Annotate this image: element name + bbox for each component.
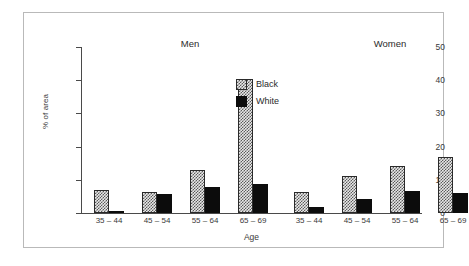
legend-swatch-solid-icon — [236, 96, 247, 107]
legend-item-black: Black — [236, 76, 279, 93]
bar-women-5564-black — [390, 166, 405, 213]
y-axis-tick-label: 30 — [399, 109, 445, 118]
bar-men-3544-white — [109, 211, 124, 213]
chart-figure: 01020304050 % of area Men Women 35 – 444… — [23, 12, 444, 248]
bar-men-4554-white — [157, 194, 172, 213]
panel-title-men: Men — [94, 38, 286, 49]
bar-men-3544-black — [94, 190, 109, 213]
x-axis-tick-label: 35 – 44 — [285, 216, 333, 225]
x-axis-line — [81, 213, 422, 214]
y-axis-tick — [76, 47, 81, 48]
y-axis-tick — [76, 113, 81, 114]
bar-women-6569-black — [438, 157, 453, 213]
bar-women-5564-white — [405, 191, 420, 213]
y-axis-tick — [76, 213, 81, 214]
bar-women-3544-black — [294, 192, 309, 213]
bar-men-5564-black — [190, 170, 205, 213]
bar-men-4554-black — [142, 192, 157, 213]
x-axis-tick-label: 45 – 54 — [133, 216, 181, 225]
chart-legend: Black White — [236, 76, 279, 110]
y-axis-tick — [76, 147, 81, 148]
legend-label-white: White — [256, 97, 279, 106]
y-axis-line — [81, 47, 82, 213]
legend-swatch-hatched-icon — [236, 79, 247, 90]
bar-women-6569-white — [453, 193, 468, 213]
x-axis-tick-label: 55 – 64 — [181, 216, 229, 225]
panel-title-women: Women — [294, 38, 469, 49]
y-axis-tick — [76, 80, 81, 81]
x-axis-tick-label: 65 – 69 — [429, 216, 469, 225]
x-axis-tick-label: 35 – 44 — [85, 216, 133, 225]
x-axis-tick-label: 55 – 64 — [381, 216, 429, 225]
y-axis-tick-label: 40 — [399, 76, 445, 85]
bar-women-3544-white — [309, 207, 324, 213]
x-axis-tick-label: 65 – 69 — [229, 216, 277, 225]
legend-label-black: Black — [256, 80, 278, 89]
bar-women-4554-black — [342, 176, 357, 213]
plot-area: 01020304050 % of area Men Women 35 – 444… — [24, 13, 445, 249]
x-axis-tick-label: 45 – 54 — [333, 216, 381, 225]
y-axis-tick — [76, 180, 81, 181]
x-axis-label: Age — [81, 232, 422, 242]
bar-men-6569-white — [253, 184, 268, 213]
bar-women-4554-white — [357, 199, 372, 213]
y-axis-tick-label: 20 — [399, 143, 445, 152]
legend-item-white: White — [236, 93, 279, 110]
bar-men-5564-white — [205, 187, 220, 213]
y-axis-label: % of area — [41, 82, 50, 142]
